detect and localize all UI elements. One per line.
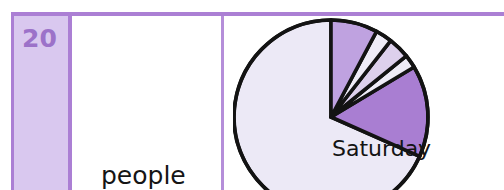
table-unit-cell: people [72, 16, 221, 190]
table-chart-cell: Saturday [224, 16, 504, 190]
table-fragment: 20 people Saturday [11, 12, 504, 190]
pie-slice-label-saturday: Saturday [332, 138, 431, 160]
screenshot-root: 20 people Saturday [0, 0, 504, 190]
row-header-value: 20 [22, 26, 57, 51]
unit-label: people [101, 163, 186, 189]
table-row-header-cell: 20 [11, 16, 72, 190]
pie-chart [233, 17, 433, 190]
